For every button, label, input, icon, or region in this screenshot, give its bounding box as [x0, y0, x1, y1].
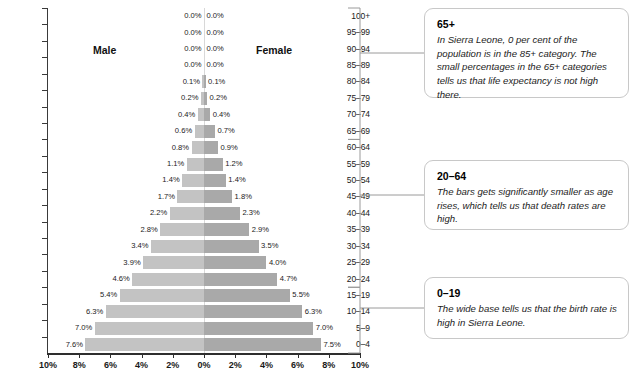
- y-axis-tick: [42, 254, 47, 255]
- pyramid-row: 5.4%5.5%: [48, 289, 360, 302]
- value-label-male: 1.7%: [158, 193, 175, 201]
- x-axis-tick: [79, 353, 80, 358]
- y-axis-tick: [42, 24, 47, 25]
- bar-female: [204, 92, 207, 105]
- value-label-female: 0.2%: [210, 95, 227, 103]
- value-label-female: 0.0%: [207, 62, 224, 70]
- pyramid-row: 2.8%2.9%: [48, 223, 360, 236]
- y-axis-tick: [42, 156, 47, 157]
- x-axis-tick: [173, 353, 174, 358]
- y-axis-tick: [42, 271, 47, 272]
- value-label-male: 0.1%: [183, 78, 200, 86]
- pyramid-row: 1.4%1.4%: [48, 174, 360, 187]
- y-axis-tick: [42, 320, 47, 321]
- y-axis-tick: [42, 337, 47, 338]
- value-label-male: 6.3%: [86, 308, 103, 316]
- bar-female: [204, 305, 302, 318]
- y-axis-tick: [42, 189, 47, 190]
- y-axis-tick: [42, 139, 47, 140]
- bar-female: [204, 125, 215, 138]
- bar-female: [204, 141, 218, 154]
- value-label-female: 5.5%: [292, 292, 309, 300]
- value-label-male: 3.9%: [123, 259, 140, 267]
- value-label-female: 2.3%: [242, 210, 259, 218]
- value-label-male: 4.6%: [112, 275, 129, 283]
- value-label-male: 0.8%: [172, 144, 189, 152]
- pyramid-row: 7.6%7.5%: [48, 338, 360, 351]
- bar-male: [170, 207, 204, 220]
- annotation-card-0-19: 0–19 The wide base tells us that the bir…: [424, 277, 629, 339]
- value-label-male: 0.6%: [175, 127, 192, 135]
- bar-male: [195, 125, 204, 138]
- bar-male: [192, 141, 204, 154]
- y-axis-tick: [42, 304, 47, 305]
- bar-female: [204, 108, 210, 121]
- pyramid-row: 4.6%4.7%: [48, 273, 360, 286]
- pyramid-row: 0.0%0.0%: [48, 26, 360, 39]
- bar-female: [204, 256, 266, 269]
- bar-female: [204, 158, 223, 171]
- bar-female: [204, 75, 206, 88]
- chart-area: 100+95–9990–9485–8980–8475–7970–7465–696…: [0, 0, 370, 378]
- pyramid-row: 0.0%0.0%: [48, 10, 360, 23]
- value-label-female: 0.0%: [207, 45, 224, 53]
- y-axis-tick: [42, 90, 47, 91]
- annotation-title: 20–64: [437, 170, 617, 183]
- pyramid-row: 0.4%0.4%: [48, 108, 360, 121]
- x-axis-tick: [110, 353, 111, 358]
- annotation-body: The wide base tells us that the birth ra…: [437, 302, 617, 329]
- annotation-title: 65+: [437, 18, 617, 31]
- pyramid-row: 3.4%3.5%: [48, 240, 360, 253]
- y-axis-tick: [42, 222, 47, 223]
- y-axis-tick: [42, 172, 47, 173]
- y-axis-tick: [42, 107, 47, 108]
- bar-male: [143, 256, 204, 269]
- value-label-female: 7.0%: [316, 325, 333, 333]
- value-label-male: 5.4%: [100, 292, 117, 300]
- bar-female: [204, 289, 290, 302]
- pyramid-row: 1.1%1.2%: [48, 158, 360, 171]
- value-label-female: 4.7%: [280, 275, 297, 283]
- value-label-female: 4.0%: [269, 259, 286, 267]
- bar-female: [204, 273, 277, 286]
- bar-female: [204, 174, 226, 187]
- pyramid-row: 6.3%6.3%: [48, 305, 360, 318]
- value-label-female: 0.7%: [217, 127, 234, 135]
- value-label-male: 7.0%: [75, 325, 92, 333]
- bar-male: [85, 338, 204, 351]
- bar-female: [204, 190, 232, 203]
- value-label-male: 0.0%: [184, 12, 201, 20]
- value-label-female: 6.3%: [305, 308, 322, 316]
- x-axis-tick: [204, 353, 205, 358]
- bar-female: [204, 207, 240, 220]
- annotation-body: In Sierra Leone, 0 per cent of the popul…: [437, 33, 617, 101]
- x-axis-tick: [142, 353, 143, 358]
- pyramid-row: 3.9%4.0%: [48, 256, 360, 269]
- value-label-male: 7.6%: [66, 341, 83, 349]
- value-label-female: 1.2%: [225, 160, 242, 168]
- x-axis-tick-label: 10%: [340, 360, 380, 370]
- value-label-male: 1.4%: [162, 177, 179, 185]
- value-label-male: 1.1%: [167, 160, 184, 168]
- bar-male: [182, 174, 204, 187]
- bar-male: [106, 305, 204, 318]
- value-label-male: 0.0%: [184, 29, 201, 37]
- bar-male: [160, 223, 204, 236]
- pyramid-row: 0.1%0.1%: [48, 75, 360, 88]
- value-label-male: 2.2%: [150, 210, 167, 218]
- y-axis-tick: [42, 238, 47, 239]
- bar-male: [177, 190, 204, 203]
- value-label-male: 0.0%: [184, 45, 201, 53]
- bar-female: [204, 322, 313, 335]
- value-label-male: 0.0%: [184, 62, 201, 70]
- pyramid-row: 0.8%0.9%: [48, 141, 360, 154]
- value-label-female: 1.8%: [235, 193, 252, 201]
- value-label-female: 0.9%: [221, 144, 238, 152]
- pyramid-row: 0.0%0.0%: [48, 59, 360, 72]
- pyramid-row: 7.0%7.0%: [48, 322, 360, 335]
- value-label-male: 3.4%: [131, 242, 148, 250]
- bar-female: [204, 240, 259, 253]
- male-series-title: Male: [93, 44, 116, 56]
- value-label-female: 3.5%: [261, 242, 278, 250]
- x-axis-tick: [48, 353, 49, 358]
